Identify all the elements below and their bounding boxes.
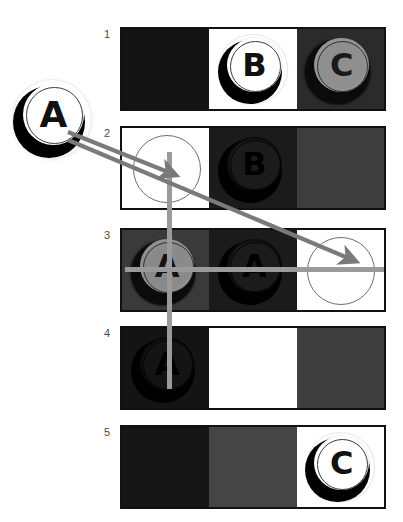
token-inner-ring: [230, 41, 281, 92]
token-inner-ring: [26, 87, 83, 144]
token-inner-ring: [317, 41, 368, 92]
row-number-2: 2: [104, 128, 110, 139]
cell-r2-c1[interactable]: [122, 128, 209, 208]
panel-row-5: C: [120, 425, 386, 509]
token-inner-ring: [230, 140, 281, 191]
token-c[interactable]: C: [305, 34, 375, 104]
cell-r5-c1[interactable]: [122, 427, 209, 507]
cell-r1-c2[interactable]: B: [209, 29, 296, 109]
diagram-canvas: 1BC2B3AA4A5C A: [0, 0, 403, 522]
row-number-4: 4: [104, 328, 110, 339]
cell-r1-c3[interactable]: C: [297, 29, 384, 109]
cell-r5-c3[interactable]: C: [297, 427, 384, 507]
source-token-a[interactable]: A: [13, 80, 91, 158]
row-number-5: 5: [104, 427, 110, 438]
row-number-3: 3: [104, 230, 110, 241]
cell-r4-c2[interactable]: [209, 328, 296, 408]
cell-r2-c2[interactable]: B: [209, 128, 296, 208]
token-c[interactable]: C: [305, 432, 375, 502]
panel-row-1: BC: [120, 27, 386, 111]
panel-row-2: B: [120, 126, 386, 210]
cell-r2-c3[interactable]: [297, 128, 384, 208]
token-a[interactable]: A: [131, 333, 201, 403]
horizontal-guide-line: [125, 267, 384, 272]
token-inner-ring: [317, 439, 368, 490]
cell-r5-c2[interactable]: [209, 427, 296, 507]
token-b[interactable]: B: [218, 133, 288, 203]
row-number-1: 1: [104, 29, 110, 40]
cell-r4-c3[interactable]: [297, 328, 384, 408]
token-b[interactable]: B: [218, 34, 288, 104]
cell-r4-c1[interactable]: A: [122, 328, 209, 408]
panel-row-4: A: [120, 326, 386, 410]
cell-r1-c1[interactable]: [122, 29, 209, 109]
